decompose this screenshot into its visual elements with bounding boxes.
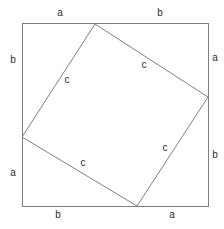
label-inner-upper-left-c: c [61,75,73,85]
label-inner-upper-right-c: c [138,60,150,70]
pythagorean-square-diagram: a b a b b a b a c c c c [0,0,224,229]
label-outer-top-left-a: a [54,8,66,18]
label-outer-bottom-left-b: b [52,210,64,220]
label-outer-left-top-b: b [7,55,19,65]
label-inner-lower-left-c: c [77,158,89,168]
label-outer-bottom-right-a: a [166,210,178,220]
top-margin-strip [0,0,224,6]
diagram-background [0,0,224,229]
label-inner-lower-right-c: c [159,143,171,153]
label-outer-right-bottom-b: b [209,150,221,160]
label-outer-left-bottom-a: a [7,168,19,178]
label-outer-right-top-a: a [209,53,221,63]
diagram-canvas [0,0,224,229]
label-outer-top-right-b: b [154,8,166,18]
